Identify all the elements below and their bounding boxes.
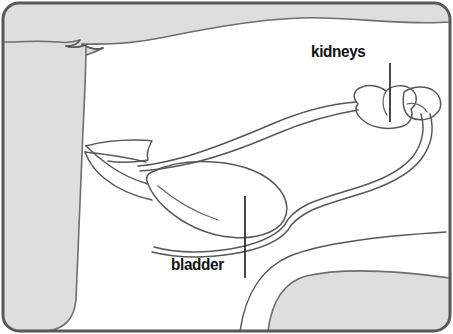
anatomy-figure: kidneys bladder	[0, 0, 453, 334]
label-kidneys: kidneys	[311, 42, 365, 62]
label-bladder: bladder	[171, 255, 224, 275]
body-region-hindquarter	[268, 271, 450, 331]
body-region-foreleg	[3, 40, 86, 331]
anatomy-diagram-canvas	[0, 0, 453, 334]
